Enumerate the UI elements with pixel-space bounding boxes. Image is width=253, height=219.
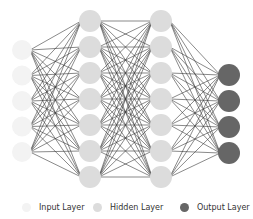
connection-edges [30,21,220,177]
hidden2-node [150,36,172,58]
hidden2-node [150,166,172,188]
hidden2-node [150,10,172,32]
output-node [218,90,240,112]
input-node [12,91,32,111]
legend-item-output-layer: Output Layer [180,200,250,214]
edge [170,127,220,177]
hidden1-node [79,140,101,162]
output-node [218,64,240,86]
output-node [218,142,240,164]
legend: Input Layer Hidden Layer Output Layer [0,200,253,214]
edge [170,73,220,75]
input-node [12,66,32,86]
hidden1-node [79,62,101,84]
input-node [12,142,32,162]
output-node [218,116,240,138]
hidden1-node [79,166,101,188]
legend-label: Hidden Layer [110,203,163,212]
edge [30,21,81,76]
edge [30,152,81,177]
edge [30,21,81,127]
edge [170,75,220,177]
legend-item-input-layer: Input Layer [22,200,85,214]
hidden-layer-swatch-icon [93,203,102,212]
hidden1-node [79,36,101,58]
hidden1-node [79,114,101,136]
hidden2-node [150,140,172,162]
input-node [12,117,32,137]
hidden2-node [150,114,172,136]
edge [170,101,220,177]
edge [170,75,220,99]
hidden2-node [150,88,172,110]
input-node [12,40,32,60]
output-layer-swatch-icon [180,203,189,212]
neural-network-diagram [0,0,253,200]
edge [30,125,81,152]
legend-label: Input Layer [39,203,85,212]
edge [170,153,220,177]
hidden1-node [79,88,101,110]
edge [170,47,220,75]
edge [170,75,220,125]
legend-item-hidden-layer: Hidden Layer [93,200,163,214]
input-layer-swatch-icon [22,203,31,212]
hidden2-node [150,62,172,84]
legend-label: Output Layer [197,203,250,212]
edge [30,21,81,50]
hidden1-node [79,10,101,32]
edge [170,21,220,75]
